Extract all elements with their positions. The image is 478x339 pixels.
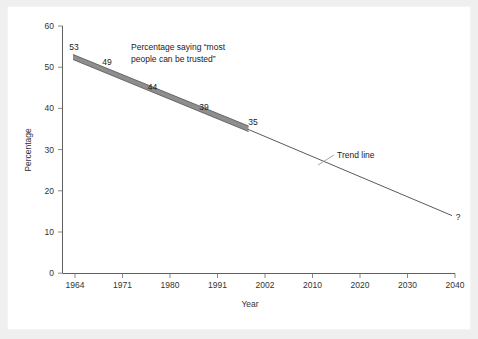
data-label-1964: 53 [69,42,79,52]
y-tick-label-0: 0 [49,268,54,278]
trust-band-bottom-edge [73,60,249,132]
data-label-1980: 44 [148,82,158,92]
y-tick-label-30: 30 [45,145,55,155]
y-tick-labels: 60 50 40 30 20 10 0 [45,21,55,278]
x-tick-label-1980: 1980 [161,280,180,290]
axes-group [63,26,456,274]
x-tick-marks [75,274,455,279]
trust-trend-chart: 60 50 40 30 20 10 0 1964 1971 1980 1991 [0,0,478,339]
x-tick-label-2020: 2020 [351,280,370,290]
x-tick-label-1991: 1991 [208,280,227,290]
x-tick-label-1971: 1971 [113,280,132,290]
y-tick-label-60: 60 [45,21,55,31]
trust-band-fill [73,55,249,132]
figure-root: 60 50 40 30 20 10 0 1964 1971 1980 1991 [0,0,478,339]
data-label-1971: 49 [102,57,112,67]
y-tick-label-10: 10 [45,227,55,237]
x-axis-title: Year [241,299,258,309]
y-axis-title: Percentage [23,128,33,172]
x-tick-label-2002: 2002 [256,280,275,290]
series-caption-line2: people can be trusted” [131,54,216,64]
y-tick-label-40: 40 [45,103,55,113]
data-label-1991: 39 [199,102,209,112]
y-tick-label-20: 20 [45,186,55,196]
x-tick-label-2010: 2010 [303,280,322,290]
x-tick-label-2030: 2030 [398,280,417,290]
trust-band-top-edge [73,55,249,127]
series-caption: Percentage saying “most people can be tr… [131,42,226,64]
series-caption-line1: Percentage saying “most [131,42,226,52]
x-tick-labels: 1964 1971 1980 1991 2002 2010 2020 2030 … [66,280,465,290]
data-label-2002: 35 [248,117,258,127]
y-tick-label-50: 50 [45,62,55,72]
x-tick-label-1964: 1964 [66,280,85,290]
x-tick-label-2040: 2040 [446,280,465,290]
y-tick-marks [58,26,63,273]
trust-percentage-band [73,55,249,132]
trend-line-label: Trend line [337,150,375,160]
unknown-future-marker: ? [456,212,461,222]
